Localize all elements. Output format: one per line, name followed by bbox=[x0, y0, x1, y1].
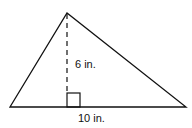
height-label: 6 in. bbox=[75, 58, 96, 70]
triangle-diagram: 6 in. 10 in. bbox=[0, 0, 192, 128]
triangle bbox=[10, 13, 186, 107]
base-label: 10 in. bbox=[78, 112, 105, 124]
right-angle-marker bbox=[67, 93, 80, 107]
